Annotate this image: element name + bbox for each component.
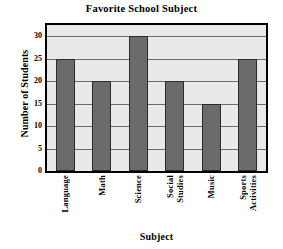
y-tick-label: 0	[24, 167, 42, 175]
x-tick-label-language: Language	[47, 175, 84, 231]
bar-science	[129, 36, 148, 171]
chart-title: Favorite School Subject	[0, 3, 283, 15]
bar-language	[56, 59, 75, 171]
gridline	[47, 149, 266, 150]
x-tick-label-line: Music	[206, 175, 216, 198]
x-tick-label-line: Science	[133, 175, 143, 203]
y-tick-label: 15	[24, 100, 42, 108]
y-tick-label: 30	[24, 32, 42, 40]
gridline	[47, 59, 266, 60]
bar-music	[202, 104, 221, 171]
bar-chart-figure: Favorite School Subject Number of Studen…	[0, 0, 283, 249]
y-axis-tick-labels: 302520151050	[22, 0, 42, 249]
x-tick-label-line: Activities	[248, 175, 258, 211]
x-tick-label-math: Math	[84, 175, 121, 231]
x-tick-label-science: Science	[120, 175, 157, 231]
plot-inner	[47, 25, 266, 171]
gridline	[47, 104, 266, 105]
gridline	[47, 81, 266, 82]
bar-social-studies	[165, 81, 184, 171]
y-tick-label: 5	[24, 145, 42, 153]
gridline	[47, 126, 266, 127]
bar-math	[92, 81, 111, 171]
x-axis-tick-labels: LanguageMathScienceSocialStudiesMusicSpo…	[45, 175, 268, 231]
gridline	[47, 36, 266, 37]
x-tick-label-line: Studies	[175, 175, 185, 203]
y-tick-label: 25	[24, 55, 42, 63]
x-tick-label-sports-activities: SportsActivities	[230, 175, 267, 231]
x-tick-label-music: Music	[193, 175, 230, 231]
x-axis-title: Subject	[45, 231, 268, 242]
y-tick-label: 10	[24, 122, 42, 130]
x-tick-label-line: Language	[60, 175, 70, 213]
x-tick-label-line: Social	[165, 175, 175, 198]
plot-area	[45, 23, 268, 173]
x-tick-label-line: Math	[97, 175, 107, 196]
y-tick-label: 20	[24, 77, 42, 85]
x-tick-label-line: Sports	[238, 175, 248, 200]
bar-sports-activities	[238, 59, 257, 171]
x-tick-label-social-studies: SocialStudies	[157, 175, 194, 231]
